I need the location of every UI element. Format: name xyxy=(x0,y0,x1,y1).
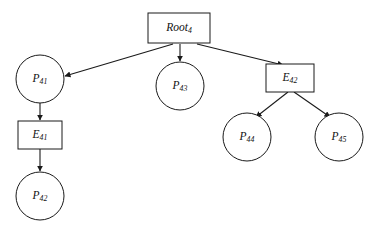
edge-e42-p45 xyxy=(294,92,330,117)
node-e41[interactable]: E41 xyxy=(18,121,62,149)
tree-diagram: Root4P41E41P42P43E42P44P45 xyxy=(0,0,376,238)
nodes-layer: Root4P41E41P42P43E42P44P45 xyxy=(16,13,363,220)
node-p41[interactable]: P41 xyxy=(16,55,64,103)
node-p43[interactable]: P43 xyxy=(156,62,204,110)
node-p42[interactable]: P42 xyxy=(16,172,64,220)
node-root4[interactable]: Root4 xyxy=(148,13,210,43)
edge-root4-p41 xyxy=(65,44,173,76)
diagram-canvas: Root4P41E41P42P43E42P44P45 xyxy=(0,0,376,238)
edge-root4-e42 xyxy=(197,44,283,65)
node-e42[interactable]: E42 xyxy=(266,64,314,92)
node-p44[interactable]: P44 xyxy=(223,113,271,161)
node-p45[interactable]: P45 xyxy=(315,113,363,161)
edge-e42-p44 xyxy=(256,92,288,117)
